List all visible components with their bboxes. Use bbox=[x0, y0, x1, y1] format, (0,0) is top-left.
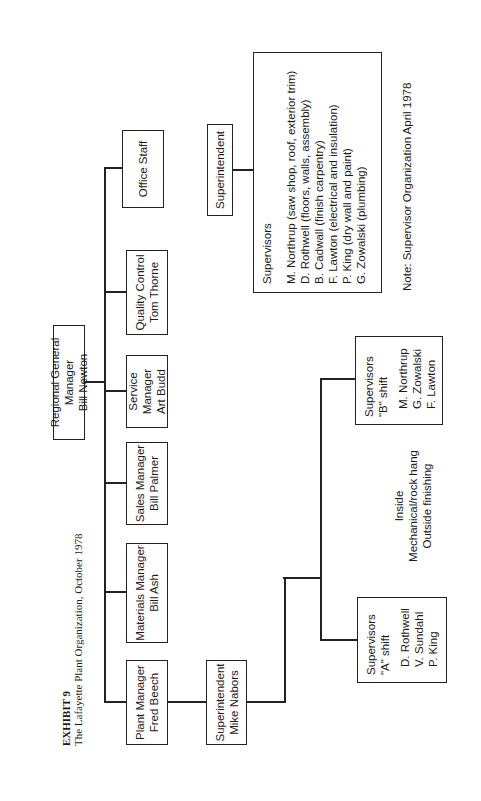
box-name: Mike Nabors bbox=[227, 670, 241, 735]
connector bbox=[168, 701, 206, 703]
april-superintendent-box: Superintendent bbox=[207, 124, 233, 216]
box-name: Bill Ash bbox=[147, 574, 161, 612]
member-name: P. King bbox=[426, 608, 440, 667]
plant-manager-box: Plant Manager Fred Beech bbox=[126, 660, 168, 745]
member-name: F. Lawton bbox=[424, 348, 438, 409]
connector bbox=[104, 390, 126, 392]
box-title: Regional General Manager bbox=[48, 326, 76, 439]
box-title: Service Manager bbox=[126, 356, 154, 427]
member-name: G. Zowalski bbox=[410, 348, 424, 409]
box-title: Superintendent bbox=[213, 131, 227, 209]
shift-b-supervisors-box: Supervisors "B" shift M. Northrup G. Zow… bbox=[355, 336, 443, 425]
box-title: Plant Manager bbox=[133, 665, 147, 740]
exhibit-header: EXHIBIT 9 The Lafayette Plant Organizati… bbox=[60, 534, 84, 746]
box-name: Tom Thorne bbox=[147, 262, 161, 323]
connector bbox=[104, 291, 126, 293]
supervisor-item: M. Northrup (saw shop, roof, exterior tr… bbox=[284, 71, 298, 284]
connector bbox=[283, 577, 320, 579]
member-name: D. Rothwell bbox=[398, 608, 412, 667]
box-title: Quality Control bbox=[133, 254, 147, 330]
supervisor-item: P. King (dry wall and paint) bbox=[340, 71, 354, 284]
box-heading: Supervisors bbox=[260, 223, 274, 284]
member-name: M. Northrup bbox=[396, 348, 410, 409]
member-name: V. Sundahl bbox=[412, 608, 426, 667]
service-manager-box: Service Manager Art Budd bbox=[126, 355, 168, 428]
box-name: Bill Palmer bbox=[147, 456, 161, 511]
supervisor-item: F. Lawton (electrical and insulation) bbox=[326, 71, 340, 284]
box-heading: Supervisors bbox=[362, 356, 376, 417]
connector bbox=[104, 167, 124, 169]
connector bbox=[247, 701, 285, 703]
connector bbox=[233, 169, 253, 171]
supervisor-item: D. Rothwell (floors, walls, assembly) bbox=[298, 71, 312, 284]
supervisor-item: G. Zowalski (plumbing) bbox=[354, 71, 368, 284]
supervisor-list: M. Northrup (saw shop, roof, exterior tr… bbox=[284, 71, 368, 284]
materials-manager-box: Materials Manager Bill Ash bbox=[126, 543, 168, 643]
shift-members: M. Northrup G. Zowalski F. Lawton bbox=[396, 348, 438, 417]
connector bbox=[320, 639, 357, 641]
shift-label: "B" shift bbox=[376, 377, 390, 417]
regional-general-manager-box: Regional General Manager Bill Newton bbox=[53, 325, 85, 440]
box-heading: Supervisors bbox=[364, 614, 378, 675]
exhibit-label: EXHIBIT 9 bbox=[60, 534, 72, 746]
connector bbox=[85, 381, 105, 383]
box-title: Superintendent bbox=[213, 664, 227, 742]
supervisor-item: B. Cadwall (finish carpentry) bbox=[312, 71, 326, 284]
connector bbox=[104, 168, 106, 703]
exhibit-title: The Lafayette Plant Organization, Octobe… bbox=[72, 534, 84, 746]
box-title: Sales Manager bbox=[133, 445, 147, 522]
april-supervisors-box: Supervisors M. Northrup (saw shop, roof,… bbox=[253, 52, 382, 293]
office-staff-box: Office Staff bbox=[122, 130, 164, 208]
quality-control-box: Quality Control Tom Thorne bbox=[126, 250, 168, 335]
connector bbox=[104, 482, 126, 484]
sales-manager-box: Sales Manager Bill Palmer bbox=[126, 442, 168, 525]
box-name: Art Budd bbox=[154, 369, 168, 414]
superintendent-mike-nabors-box: Superintendent Mike Nabors bbox=[206, 660, 247, 745]
function-item: Inside bbox=[392, 446, 406, 566]
connector bbox=[104, 591, 126, 593]
box-title: Materials Manager bbox=[133, 545, 147, 640]
rotated-page: EXHIBIT 9 The Lafayette Plant Organizati… bbox=[0, 0, 481, 801]
function-item: Outside finishing bbox=[420, 446, 434, 566]
connector bbox=[104, 701, 126, 703]
shift-label: "A" shift bbox=[378, 635, 392, 675]
box-name: Fred Beech bbox=[147, 673, 161, 732]
connector bbox=[320, 379, 322, 641]
functions-list: Inside Mechanical/rock hang Outside fini… bbox=[392, 446, 434, 566]
supervisor-note: Note: Supervisor Organization April 1978 bbox=[400, 83, 414, 291]
connector bbox=[284, 579, 286, 703]
box-title: Office Staff bbox=[136, 141, 150, 197]
connector bbox=[320, 378, 355, 380]
function-item: Mechanical/rock hang bbox=[406, 446, 420, 566]
shift-members: D. Rothwell V. Sundahl P. King bbox=[398, 608, 440, 675]
shift-a-supervisors-box: Supervisors "A" shift D. Rothwell V. Sun… bbox=[357, 597, 447, 683]
